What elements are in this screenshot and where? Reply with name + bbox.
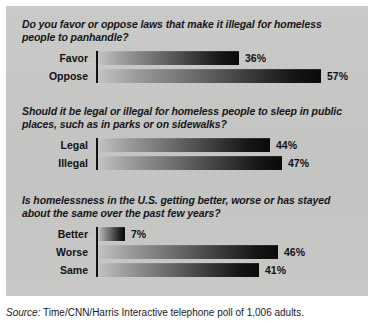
question-text-2: Should it be legal or illegal for homele… — [6, 105, 368, 131]
bar-row: Better 7% — [6, 227, 368, 241]
question-text-3: Is homelessness in the U.S. getting bett… — [6, 194, 368, 220]
bar-row: Favor 36% — [6, 51, 368, 65]
bar-track: 57% — [98, 69, 368, 83]
bar-track: 44% — [98, 138, 368, 152]
bar-same — [98, 263, 259, 277]
bar-value-oppose: 57% — [327, 69, 348, 83]
question-text-1: Do you favor or oppose laws that make it… — [6, 18, 368, 44]
bar-value-worse: 46% — [284, 245, 305, 259]
bar-value-favor: 36% — [245, 51, 266, 65]
bar-row: Illegal 47% — [6, 156, 368, 170]
bar-legal — [98, 138, 270, 152]
bar-worse — [98, 245, 278, 259]
bar-row: Oppose 57% — [6, 69, 368, 83]
bar-row: Same 41% — [6, 263, 368, 277]
category-label-same: Same — [6, 263, 92, 277]
bar-chart-1: Favor 36% Oppose 57% — [6, 51, 368, 83]
bar-row: Worse 46% — [6, 245, 368, 259]
chart-panel: Do you favor or oppose laws that make it… — [6, 6, 368, 296]
bar-better — [98, 227, 125, 241]
bar-oppose — [98, 69, 321, 83]
bar-value-illegal: 47% — [288, 156, 309, 170]
bar-track: 41% — [98, 263, 368, 277]
category-label-legal: Legal — [6, 138, 92, 152]
bar-illegal — [98, 156, 282, 170]
category-label-better: Better — [6, 227, 92, 241]
bar-value-better: 7% — [131, 227, 146, 241]
question-block-2: Should it be legal or illegal for homele… — [6, 105, 368, 170]
bar-track: 46% — [98, 245, 368, 259]
category-label-favor: Favor — [6, 51, 92, 65]
bar-value-same: 41% — [265, 263, 286, 277]
bar-track: 47% — [98, 156, 368, 170]
bar-row: Legal 44% — [6, 138, 368, 152]
bar-value-legal: 44% — [276, 138, 297, 152]
question-block-3: Is homelessness in the U.S. getting bett… — [6, 194, 368, 277]
bar-favor — [98, 51, 239, 65]
question-block-1: Do you favor or oppose laws that make it… — [6, 18, 368, 83]
bar-chart-2: Legal 44% Illegal 47% — [6, 138, 368, 170]
category-label-illegal: Illegal — [6, 156, 92, 170]
poll-chart-figure: Do you favor or oppose laws that make it… — [0, 0, 368, 333]
bar-track: 36% — [98, 51, 368, 65]
source-label: Source: — [6, 307, 40, 318]
category-label-oppose: Oppose — [6, 69, 92, 83]
bar-chart-3: Better 7% Worse 46% Same — [6, 227, 368, 277]
bar-track: 7% — [98, 227, 368, 241]
source-note: Source: Time/CNN/Harris Interactive tele… — [6, 306, 362, 319]
source-text: Time/CNN/Harris Interactive telephone po… — [40, 307, 303, 318]
category-label-worse: Worse — [6, 245, 92, 259]
